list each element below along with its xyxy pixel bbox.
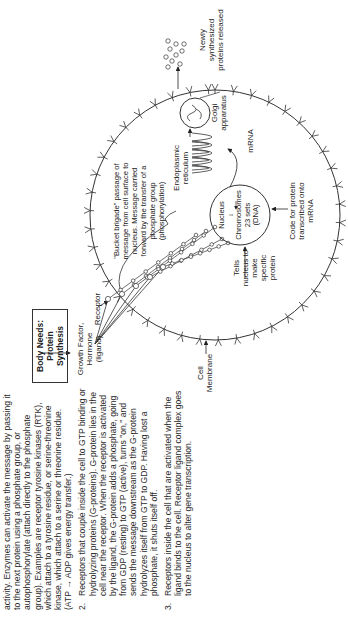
mrna-label: mRNA <box>246 129 255 153</box>
tells-nucleus-label: Tells nucleus to make specific protein <box>232 247 277 289</box>
receptor-label: Receptor <box>93 289 102 329</box>
membrane-line: Cell <box>196 353 205 393</box>
endoplasmic-reticulum <box>192 133 212 173</box>
protein-dots <box>164 39 186 69</box>
ligand-line: Growth Factor, Hormone <box>76 307 94 391</box>
nucleus-text: Nucleus ↓ Chromosomes 23 sets (DNA) <box>218 189 261 241</box>
box-title: Body Needs: <box>35 314 45 378</box>
nucleus-label: Nucleus <box>218 189 227 241</box>
golgi-apparatus <box>180 98 210 128</box>
golgi-label: Golgi apparatus <box>210 93 228 133</box>
body-needs-box: Body Needs: Protein Synthesis <box>32 309 68 383</box>
membrane-line: Membrane <box>205 353 214 393</box>
bucket-brigade-label: "Bucket brigade" passage of message from… <box>112 157 166 265</box>
dna-label: (DNA) <box>252 189 261 241</box>
code-for-protein-label: Code for protein transcribed onto mRNA <box>288 181 315 241</box>
cell-membrane-label: Cell Membrane <box>196 353 214 393</box>
rotated-page: activity. Enzymes can activate the messa… <box>0 0 348 619</box>
er-label: Endoplasmic reticulum <box>172 139 190 197</box>
released-label: Newly synthesized proteins released <box>198 7 225 73</box>
box-subtitle: Protein Synthesis <box>45 314 65 378</box>
